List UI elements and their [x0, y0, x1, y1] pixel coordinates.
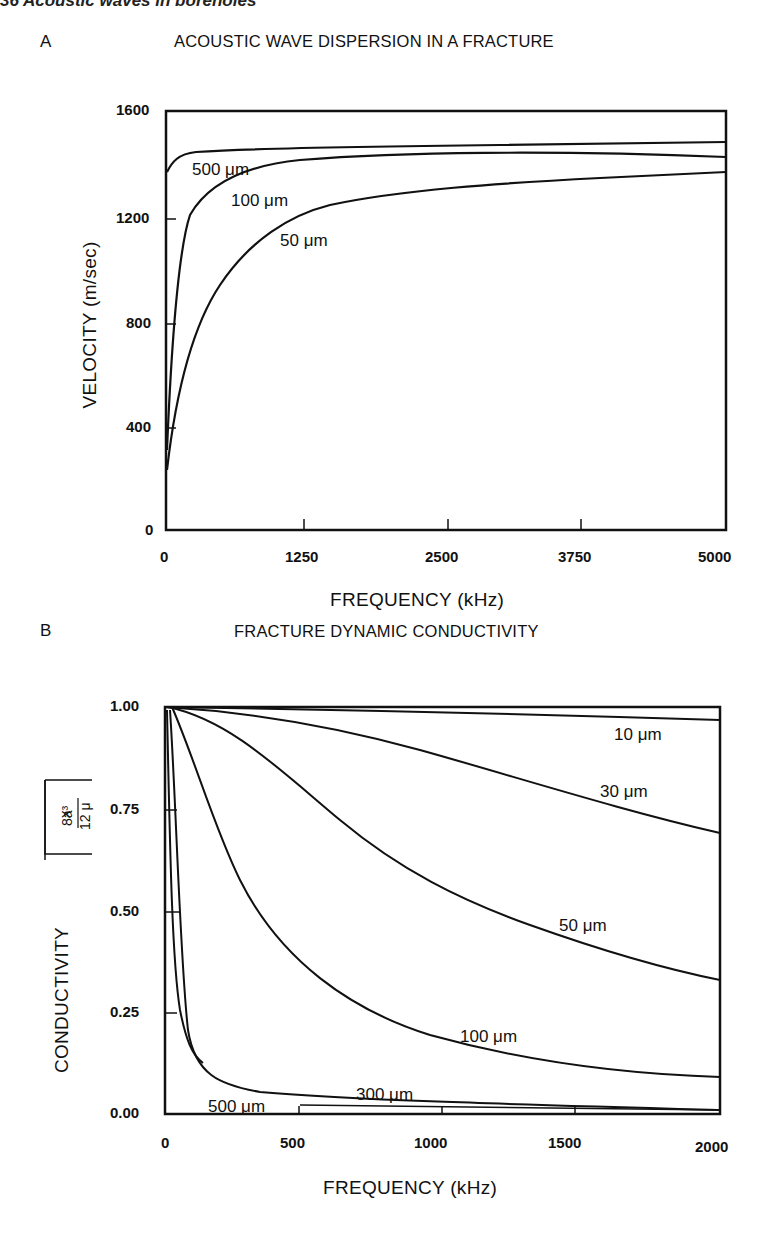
curve-b-50um [168, 707, 720, 980]
curve-a-50um [167, 172, 726, 470]
figure-canvas: 500 μm 100 μm 50 μm [0, 0, 773, 1236]
curve-b-100um [172, 707, 720, 1077]
chart-a: 500 μm 100 μm 50 μm [166, 111, 726, 530]
ylabel-factor-num: 8a³ [59, 805, 75, 826]
label-b-300um: 300 μm [356, 1085, 413, 1104]
chart-b-curves [165, 707, 720, 1110]
chart-b: 10 μm 30 μm 50 μm 100 μm 300 μm 500 μm x… [45, 707, 720, 1116]
curve-b-300um [170, 710, 720, 1110]
chart-b-curve-labels: 10 μm 30 μm 50 μm 100 μm 300 μm 500 μm x… [56, 725, 662, 1116]
label-b-500um: 500 μm [208, 1097, 265, 1116]
chart-a-frame [166, 111, 726, 530]
curve-a-500um [167, 142, 726, 172]
chart-a-curve-labels: 500 μm 100 μm 50 μm [192, 160, 328, 250]
curve-b-10um [165, 707, 720, 720]
label-a-500um: 500 μm [192, 160, 249, 179]
label-a-50um: 50 μm [280, 231, 328, 250]
ylabel-factor-den: 12 μ [77, 802, 93, 830]
chart-b-ticks [165, 810, 720, 1114]
label-b-100um: 100 μm [460, 1027, 517, 1046]
chart-b-frame [165, 707, 720, 1114]
label-a-100um: 100 μm [231, 191, 288, 210]
label-b-50um: 50 μm [559, 916, 607, 935]
chart-a-ticks [166, 219, 581, 530]
label-b-10um: 10 μm [614, 725, 662, 744]
label-b-30um: 30 μm [600, 782, 648, 801]
